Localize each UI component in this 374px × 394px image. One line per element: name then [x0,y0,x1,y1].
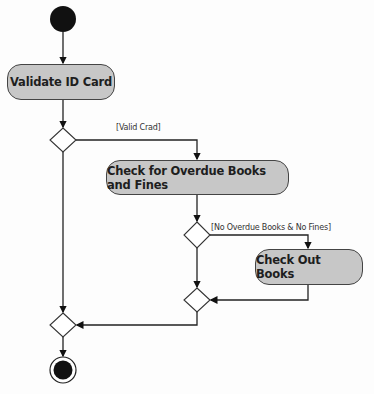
action-label: Check for Overdue Books and Fines [107,164,288,192]
final-node [54,361,73,380]
action-validate-id-card: Validate ID Card [7,64,115,100]
action-label: Check Out Books [256,253,362,281]
guard-valid-card: [Valid Crad] [116,123,161,132]
edge-decision1-check [76,140,197,159]
action-label: Validate ID Card [10,75,112,89]
action-check-out-books: Check Out Books [255,249,363,285]
diagram-canvas [0,0,374,394]
edge-decision2-checkout [210,235,308,248]
decision-node-valid-card [50,128,76,152]
edge-checkout-merge1 [211,285,308,300]
merge-node-checkout [184,288,210,312]
initial-node [50,6,76,32]
action-check-overdue: Check for Overdue Books and Fines [106,160,289,195]
merge-node-final [50,313,76,337]
edge-merge1-merge2 [77,312,197,325]
decision-node-overdue [184,222,210,248]
guard-no-overdue: [No Overdue Books & No Fines] [211,223,331,232]
